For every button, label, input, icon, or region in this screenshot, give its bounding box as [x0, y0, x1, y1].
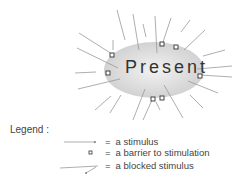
legend-title: Legend : [10, 124, 49, 135]
equals-sign: = [105, 136, 111, 147]
legend-text: a stimulus [116, 136, 159, 147]
present-label: Present [125, 57, 208, 78]
equals-sign: = [105, 147, 111, 158]
legend-item-blocked: =a blocked stimulus [105, 160, 194, 171]
equals-sign: = [105, 160, 111, 171]
legend-text: a barrier to stimulation [116, 147, 210, 158]
legend-item-stimulus: =a stimulus [105, 136, 158, 147]
stimulus-diagram [0, 0, 242, 187]
legend-text: a blocked stimulus [116, 160, 194, 171]
legend-item-barrier: =a barrier to stimulation [105, 147, 210, 158]
